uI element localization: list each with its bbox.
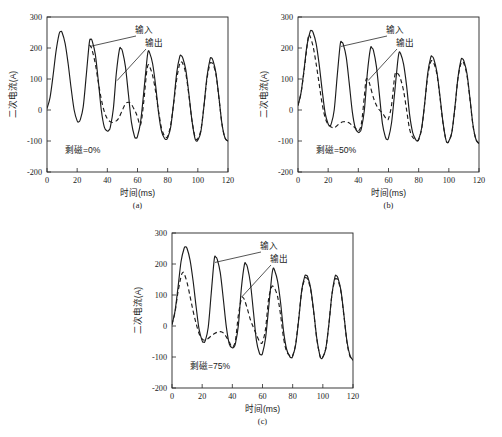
y-axis-title: 二次电流(A) bbox=[258, 71, 269, 119]
y-tick-label: -100 bbox=[27, 137, 42, 146]
curves-group bbox=[47, 31, 228, 141]
x-tick-label: 0 bbox=[296, 176, 300, 185]
output-annotation-label: 输出 bbox=[270, 253, 288, 264]
y-tick-label: 200 bbox=[155, 260, 167, 269]
y-tick-label: 0 bbox=[38, 106, 42, 115]
x-tick-label: 20 bbox=[198, 392, 206, 401]
chart-panel-c: 020406080100120-200-1000100200300时间(ms)二… bbox=[125, 216, 376, 436]
x-tick-label: 20 bbox=[324, 176, 332, 185]
condition-annotation: 剩磁=0% bbox=[65, 144, 101, 155]
x-tick-label: 20 bbox=[73, 176, 81, 185]
panel-c-svg: 020406080100120-200-1000100200300时间(ms)二… bbox=[125, 216, 376, 436]
x-tick-label: 60 bbox=[133, 176, 141, 185]
panel-tag: (c) bbox=[258, 417, 268, 426]
y-axis-title: 二次电流(A) bbox=[132, 287, 143, 335]
x-tick-label: 120 bbox=[347, 392, 359, 401]
input-annotation-label: 输入 bbox=[260, 240, 278, 251]
output-leader-line bbox=[117, 49, 146, 81]
output-leader-line bbox=[368, 49, 397, 81]
input-leader-line bbox=[341, 36, 387, 46]
y-tick-label: -200 bbox=[152, 384, 167, 393]
panel-b-svg: 020406080100120-200-1000100200300时间(ms)二… bbox=[251, 0, 502, 220]
chart-panel-a: 020406080100120-200-1000100200300时间(ms)二… bbox=[0, 0, 251, 220]
y-axis-title: 二次电流(A) bbox=[7, 71, 18, 119]
y-tick-label: -100 bbox=[152, 353, 167, 362]
x-tick-label: 40 bbox=[103, 176, 111, 185]
input-annotation-label: 输入 bbox=[386, 24, 404, 35]
x-tick-label: 120 bbox=[473, 176, 485, 185]
chart-panel-b: 020406080100120-200-1000100200300时间(ms)二… bbox=[251, 0, 502, 220]
x-tick-label: 100 bbox=[443, 176, 455, 185]
condition-annotation: 剩磁=75% bbox=[190, 360, 231, 371]
x-tick-label: 60 bbox=[258, 392, 266, 401]
x-tick-label: 80 bbox=[289, 392, 297, 401]
x-tick-label: 40 bbox=[228, 392, 236, 401]
curves-group bbox=[172, 247, 353, 360]
curve-output bbox=[298, 35, 479, 144]
output-annotation-label: 输出 bbox=[145, 37, 163, 48]
y-tick-label: 300 bbox=[155, 229, 167, 238]
panel-a-svg: 020406080100120-200-1000100200300时间(ms)二… bbox=[0, 0, 251, 220]
y-tick-label: -200 bbox=[278, 168, 293, 177]
x-tick-label: 100 bbox=[317, 392, 329, 401]
y-tick-label: 300 bbox=[30, 13, 42, 22]
input-leader-line bbox=[215, 252, 261, 262]
x-tick-label: 0 bbox=[45, 176, 49, 185]
curves-group bbox=[298, 30, 479, 143]
output-annotation-label: 输出 bbox=[396, 37, 414, 48]
y-tick-label: 0 bbox=[163, 322, 167, 331]
x-tick-label: 80 bbox=[164, 176, 172, 185]
y-tick-label: 100 bbox=[30, 75, 42, 84]
curve-input bbox=[47, 31, 228, 141]
x-axis-title: 时间(ms) bbox=[120, 187, 155, 198]
input-annotation-label: 输入 bbox=[135, 24, 153, 35]
y-tick-label: 100 bbox=[155, 291, 167, 300]
x-tick-label: 100 bbox=[192, 176, 204, 185]
curve-input bbox=[298, 30, 479, 143]
panel-tag: (b) bbox=[384, 201, 394, 210]
y-tick-label: 200 bbox=[281, 44, 293, 53]
x-tick-label: 40 bbox=[354, 176, 362, 185]
condition-annotation: 剩磁=50% bbox=[316, 144, 357, 155]
output-leader-line bbox=[242, 265, 271, 297]
y-tick-label: 200 bbox=[30, 44, 42, 53]
y-tick-label: 300 bbox=[281, 13, 293, 22]
x-axis-title: 时间(ms) bbox=[371, 187, 406, 198]
x-tick-label: 80 bbox=[415, 176, 423, 185]
x-tick-label: 0 bbox=[170, 392, 174, 401]
y-tick-label: 100 bbox=[281, 75, 293, 84]
y-tick-label: 0 bbox=[289, 106, 293, 115]
y-tick-label: -200 bbox=[27, 168, 42, 177]
x-tick-label: 120 bbox=[222, 176, 234, 185]
input-leader-line bbox=[90, 36, 136, 46]
y-tick-label: -100 bbox=[278, 137, 293, 146]
panel-tag: (a) bbox=[133, 201, 143, 210]
x-axis-title: 时间(ms) bbox=[245, 403, 280, 414]
x-tick-label: 60 bbox=[384, 176, 392, 185]
